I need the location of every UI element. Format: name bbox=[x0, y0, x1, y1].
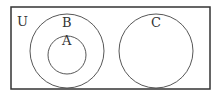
universe-label: U bbox=[17, 14, 28, 29]
venn-diagram: U B A C bbox=[0, 0, 218, 93]
set-a-label: A bbox=[61, 33, 72, 48]
set-b-label: B bbox=[62, 15, 72, 30]
set-c-label: C bbox=[151, 15, 161, 30]
